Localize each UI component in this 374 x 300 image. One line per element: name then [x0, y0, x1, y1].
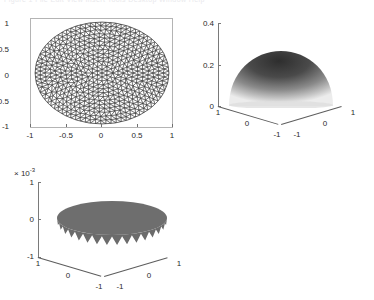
mesh-xtick-mark: [137, 124, 138, 127]
mesh-xtick-label: 1: [159, 132, 185, 140]
mesh-ytick-label: -1: [0, 123, 9, 131]
mesh-xtick-label: -0.5: [53, 132, 79, 140]
error-xtick-label: 1: [169, 260, 189, 268]
error-ztick-label: 1: [10, 179, 34, 187]
error-xtick-label: 0: [139, 272, 159, 280]
error-ztick-mark: [38, 219, 41, 220]
triangular-mesh-svg: [34, 21, 170, 125]
mesh-xtick-label: 0.5: [124, 132, 150, 140]
solution-xtick-label: -1: [287, 131, 307, 139]
solution-surface-panel: 0.4 0.2 0 1 0: [185, 10, 374, 155]
solution-xtick-label: 1: [343, 109, 363, 117]
mesh-xtick-label: -1: [17, 132, 43, 140]
clipped-window-header: Figure 1 File Edit View Insert Tools Des…: [4, 0, 244, 5]
error-ytick-label: 1: [28, 260, 48, 268]
mesh-ytick-label: -0.5: [0, 98, 9, 106]
error-ytick-label: -1: [89, 283, 109, 291]
mesh-ytick-label: 0: [0, 72, 9, 80]
mesh-xtick-mark: [30, 124, 31, 127]
solution-dome-surface: [228, 48, 334, 108]
matlab-figure-canvas: Figure 1 File Edit View Insert Tools Des…: [0, 0, 374, 300]
solution-ztick-label: 0.2: [190, 62, 214, 70]
solution-ztick-mark: [218, 23, 221, 24]
error-exponent-power: -3: [30, 167, 35, 173]
mesh-xtick-label: 0: [88, 132, 114, 140]
mesh-xtick-mark: [66, 124, 67, 127]
error-exponent-prefix: ×: [14, 169, 19, 178]
error-xtick-label: -1: [110, 283, 130, 291]
mesh-xtick-mark: [101, 124, 102, 127]
mesh-domain-ellipse: [34, 21, 170, 125]
solution-ztick-label: 0.4: [190, 20, 214, 28]
error-exponent-label: × 10-3: [14, 166, 35, 178]
solution-xtick-label: 0: [315, 120, 335, 128]
solution-ztick-mark: [218, 65, 221, 66]
error-ztick-mark: [38, 182, 41, 183]
error-jagged-surface: [56, 196, 168, 250]
solution-ytick-label: -1: [267, 131, 287, 139]
solution-ytick-label: 0: [237, 120, 257, 128]
error-ytick-label: 0: [58, 272, 78, 280]
mesh-plot-box: [30, 18, 173, 128]
error-ztick-label: 0: [10, 216, 34, 224]
error-surface-panel: × 10-3 1 0 -1 1 0 -1 -1 0 1: [0, 160, 205, 300]
error-exponent-base: 10: [21, 169, 30, 178]
mesh-ytick-label: 1: [0, 20, 9, 28]
solution-ytick-label: 1: [208, 109, 228, 117]
mesh-xtick-mark: [172, 124, 173, 127]
mesh-ytick-label: 0.5: [0, 46, 9, 54]
mesh-plot-panel: 1 0.5 0 -0.5 -1: [0, 10, 185, 145]
